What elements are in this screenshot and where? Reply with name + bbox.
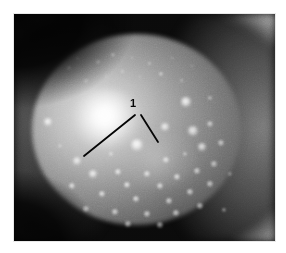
leader-lines-group [84, 115, 158, 156]
figure-root: 1 [0, 0, 286, 253]
leader-lines-svg [14, 14, 275, 241]
ophthalmic-photograph: 1 [14, 14, 275, 241]
annotation-leader-line [84, 115, 135, 156]
annotation-label-1: 1 [130, 98, 136, 109]
annotation-leader-line [141, 115, 158, 142]
annotation-overlay: 1 [14, 14, 275, 241]
